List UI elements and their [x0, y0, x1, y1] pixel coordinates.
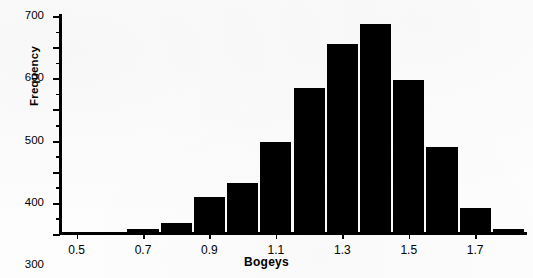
histogram-bar — [94, 232, 125, 234]
y-tick-label-500: 500 — [25, 135, 44, 147]
x-axis-label: Bogeys — [0, 255, 533, 269]
x-tick-0.7 — [143, 234, 145, 239]
y-tick-600: 600 — [53, 47, 60, 49]
x-tick-1.5 — [409, 234, 411, 239]
y-minor-tick-50 — [56, 218, 60, 220]
x-tick-0.9 — [209, 234, 211, 239]
y-minor-tick-550 — [56, 63, 60, 65]
histogram-bar — [460, 208, 491, 234]
histogram-bar — [393, 80, 424, 234]
histogram-bar — [227, 183, 258, 234]
histogram-bar — [493, 229, 524, 234]
histogram-bar — [194, 197, 225, 234]
y-minor-tick-450 — [56, 94, 60, 96]
y-minor-tick-650 — [56, 32, 60, 34]
histogram-figure: Frequency 0100200300400500600700 0.50.70… — [0, 0, 533, 278]
y-tick-label-400: 400 — [25, 197, 44, 209]
y-tick-0: 0 — [53, 234, 60, 236]
y-minor-tick-350 — [56, 125, 60, 127]
histogram-bar — [294, 88, 325, 234]
x-tick-1.7 — [475, 234, 477, 239]
y-tick-100: 100 — [53, 203, 60, 205]
histogram-bar — [426, 147, 457, 234]
y-tick-label-700: 700 — [25, 10, 44, 22]
histogram-bar — [260, 142, 291, 234]
x-tick-1.3 — [342, 234, 344, 239]
y-tick-500: 500 — [53, 78, 60, 80]
plot-area: 0100200300400500600700 0.50.70.91.11.31.… — [60, 16, 525, 234]
y-minor-tick-250 — [56, 156, 60, 158]
histogram-bar — [327, 44, 358, 234]
histogram-bar — [61, 232, 92, 234]
y-tick-400: 400 — [53, 109, 60, 111]
y-tick-200: 200 — [53, 172, 60, 174]
y-tick-label-600: 600 — [25, 73, 44, 85]
x-tick-0.5 — [77, 234, 79, 239]
histogram-bar — [161, 223, 192, 234]
x-tick-1.1 — [276, 234, 278, 239]
histogram-bar — [360, 24, 391, 234]
y-tick-300: 300 — [53, 141, 60, 143]
histogram-bar — [127, 229, 158, 234]
y-tick-700: 700 — [53, 16, 60, 18]
y-minor-tick-150 — [56, 187, 60, 189]
